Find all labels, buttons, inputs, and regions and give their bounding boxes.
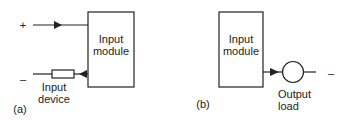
arrow-right-icon [270, 68, 279, 76]
plus-terminal-label: + [18, 19, 28, 31]
diagram-b-tag: (b) [193, 98, 213, 110]
arrow-right-icon [54, 21, 62, 29]
diagram-a-tag: (a) [10, 103, 30, 115]
input-device-resistor [52, 70, 74, 78]
input-module-label-a: Input module [88, 33, 134, 57]
minus-terminal-label: – [18, 73, 28, 85]
arrow-left-icon [79, 70, 87, 78]
output-load-label: Output load [278, 88, 314, 112]
output-load-circle [283, 62, 304, 83]
minus-terminal-label-b: – [326, 67, 336, 79]
input-module-label-b: Input module [219, 33, 263, 57]
input-device-label: Input device [36, 81, 72, 105]
